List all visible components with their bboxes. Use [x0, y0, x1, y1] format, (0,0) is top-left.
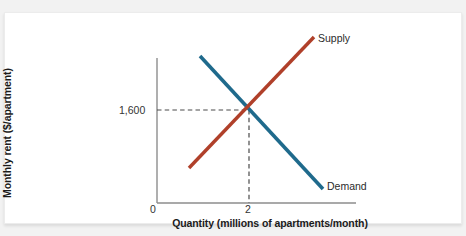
supply-curve [189, 37, 314, 168]
screenshot-root: Monthly rent ($/apartment) Quantity (mil… [0, 0, 466, 236]
supply-demand-chart [5, 13, 466, 236]
chart-card: Monthly rent ($/apartment) Quantity (mil… [4, 12, 462, 224]
y-axis-tick-label: 1,600 [119, 104, 145, 116]
x-axis-tick-label-two: 2 [245, 203, 251, 215]
supply-curve-label: Supply [318, 32, 350, 44]
demand-curve [200, 56, 323, 189]
demand-curve-label: Demand [327, 180, 367, 192]
y-axis-title: Monthly rent ($/apartment) [1, 53, 13, 213]
x-axis-title: Quantity (millions of apartments/month) [125, 217, 415, 229]
x-axis-tick-label-zero: 0 [150, 203, 156, 215]
